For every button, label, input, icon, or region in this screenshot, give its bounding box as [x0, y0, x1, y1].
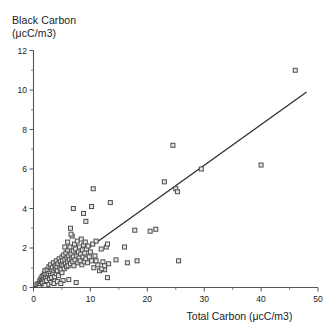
scatter-point — [78, 259, 82, 263]
scatter-point — [101, 260, 105, 264]
scatter-point — [154, 227, 158, 231]
x-axis-tick-label: 20 — [143, 294, 153, 304]
scatter-point — [59, 282, 63, 286]
scatter-point — [60, 271, 64, 275]
scatter-point — [125, 261, 129, 265]
scatter-point — [86, 244, 90, 248]
scatter-point — [83, 240, 87, 244]
y-axis-tick-label: 10 — [18, 85, 28, 95]
scatter-point — [162, 180, 166, 184]
scatter-point — [84, 219, 88, 223]
scatter-point — [91, 187, 95, 191]
scatter-point — [74, 281, 78, 285]
scatter-point — [133, 228, 137, 232]
scatter-point — [114, 258, 118, 262]
scatter-point — [259, 163, 263, 167]
scatter-point — [72, 264, 76, 268]
plot-canvas: 02468101201020304050 — [0, 0, 333, 332]
x-axis-label: Total Carbon (μcC/m3) — [0, 310, 333, 322]
scatter-points — [35, 68, 297, 287]
scatter-point — [82, 211, 86, 215]
scatter-point — [92, 266, 96, 270]
x-axis-tick-label: 0 — [31, 294, 36, 304]
scatter-point — [93, 254, 97, 258]
y-axis-tick-label: 4 — [22, 204, 27, 214]
scatter-point — [69, 232, 73, 236]
scatter-point — [66, 240, 70, 244]
scatter-point — [199, 167, 203, 171]
scatter-point — [68, 226, 72, 230]
scatter-plot-figure: Black Carbon (μcC/m3) 024681012010203040… — [0, 0, 333, 332]
scatter-point — [79, 237, 83, 241]
scatter-point — [63, 245, 67, 249]
scatter-point — [67, 278, 71, 282]
y-axis-tick-label: 0 — [22, 283, 27, 293]
x-axis-tick-label: 40 — [256, 294, 266, 304]
scatter-point — [94, 239, 98, 243]
scatter-point — [86, 261, 90, 265]
scatter-point — [103, 264, 107, 268]
x-axis-label-text: Total Carbon (μcC/m3) — [187, 310, 293, 322]
scatter-point — [90, 259, 94, 263]
x-axis-tick-label: 50 — [313, 294, 323, 304]
scatter-point — [107, 262, 111, 266]
scatter-point — [293, 68, 297, 72]
scatter-point — [87, 255, 91, 259]
scatter-point — [108, 201, 112, 205]
scatter-point — [148, 229, 152, 233]
x-axis-tick-label: 30 — [199, 294, 209, 304]
y-axis-tick-label: 2 — [22, 243, 27, 253]
scatter-point — [71, 207, 75, 211]
scatter-point — [105, 242, 109, 246]
scatter-point — [105, 276, 109, 280]
scatter-point — [135, 259, 139, 263]
scatter-point — [43, 284, 47, 288]
scatter-point — [171, 143, 175, 147]
scatter-point — [75, 239, 79, 243]
y-axis-tick-label: 8 — [22, 125, 27, 135]
scatter-point — [90, 205, 94, 209]
y-axis-tick-label: 6 — [22, 164, 27, 174]
scatter-point — [96, 263, 100, 267]
scatter-point — [177, 259, 181, 263]
scatter-point — [99, 247, 103, 251]
scatter-point — [83, 251, 87, 255]
scatter-point — [123, 245, 127, 249]
scatter-point — [175, 190, 179, 194]
scatter-point — [94, 259, 98, 263]
x-axis-tick-label: 10 — [86, 294, 96, 304]
scatter-point — [88, 250, 92, 254]
scatter-point — [68, 245, 72, 249]
y-axis-tick-label: 12 — [18, 46, 28, 56]
